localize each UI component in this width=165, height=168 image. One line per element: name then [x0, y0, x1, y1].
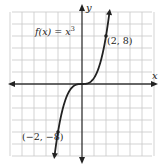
x-axis-right-arrow-icon	[151, 81, 158, 87]
y-axis-up-arrow-icon	[79, 4, 85, 11]
x-axis-left-arrow-icon	[8, 81, 15, 87]
y-axis-label: y	[85, 2, 92, 13]
function-label: f(x) = x3	[34, 25, 75, 37]
y-axis-down-arrow-icon	[79, 157, 85, 164]
x-axis-label: x	[152, 70, 158, 81]
annotation-point-2-8: (2, 8)	[107, 35, 133, 46]
cubic-function-graph: x y f(x) = x3 (2, 8) (−2, −8)	[0, 0, 165, 168]
annotation-point-neg2-neg8: (−2, −8)	[22, 131, 63, 142]
